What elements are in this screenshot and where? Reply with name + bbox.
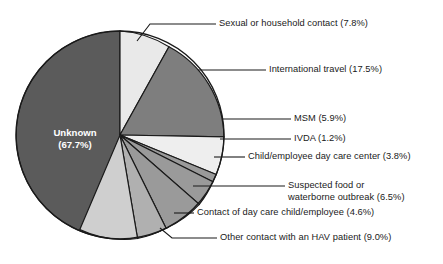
callout-label-other-contact-hav: Other contact with an HAV patient (9.0%) xyxy=(220,232,391,244)
callout-label-suspected-food-waterborne: Suspected food or waterborne outbreak (6… xyxy=(288,180,405,203)
callout-label-sexual-household: Sexual or household contact (7.8%) xyxy=(219,18,368,30)
center-label-name: Unknown xyxy=(30,127,120,139)
callout-label-msm: MSM (5.9%) xyxy=(294,113,346,125)
callout-label-child-employee-daycare: Child/employee day care center (3.8%) xyxy=(248,151,411,163)
pie-chart-figure: Unknown (67.7%) Sexual or household cont… xyxy=(0,0,443,264)
callout-label-suspected-food-line2: waterborne outbreak (6.5%) xyxy=(288,192,405,204)
callout-label-ivda: IVDA (1.2%) xyxy=(294,133,346,145)
center-label-percent: (67.7%) xyxy=(30,139,120,151)
callout-label-international-travel: International travel (17.5%) xyxy=(269,64,382,76)
callout-label-contact-daycare: Contact of day care child/employee (4.6%… xyxy=(197,207,374,219)
callout-label-suspected-food-line1: Suspected food or xyxy=(288,180,405,192)
leader-line-other-contact-hav xyxy=(160,228,217,238)
center-label-unknown: Unknown (67.7%) xyxy=(30,127,120,151)
